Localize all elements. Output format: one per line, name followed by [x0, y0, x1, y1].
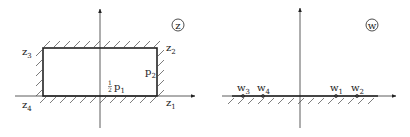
point-w2: w2 — [351, 82, 364, 96]
side-label-half-p1: 1 2 p1 — [108, 79, 125, 95]
w-plane-panel: w3 w4 w1 w2 w — [222, 8, 396, 128]
w-plane-label: w — [368, 20, 377, 31]
side-label-p2: p2 — [145, 66, 156, 80]
point-w1: w1 — [330, 82, 343, 96]
svg-text:1: 1 — [108, 79, 112, 86]
point-w4: w4 — [257, 82, 271, 96]
svg-text:2: 2 — [108, 86, 112, 93]
conformal-map-diagram: z z3 z2 z4 z1 p2 1 2 p1 w3 w4 w1 — [0, 0, 410, 137]
vertex-z1: z1 — [166, 97, 176, 111]
z-plane-panel: z z3 z2 z4 z1 p2 1 2 p1 — [15, 9, 195, 128]
z-plane-label: z — [175, 20, 180, 31]
w-hatching — [228, 98, 374, 104]
vertex-z4: z4 — [22, 99, 32, 113]
vertex-z3: z3 — [22, 46, 32, 60]
vertex-z2: z2 — [166, 42, 176, 56]
point-w3: w3 — [237, 82, 250, 96]
svg-text:p1: p1 — [114, 81, 125, 95]
